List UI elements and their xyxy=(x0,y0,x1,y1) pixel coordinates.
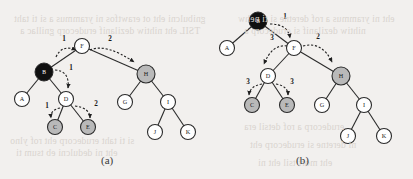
traversal-arrow-label: 2 xyxy=(94,100,98,108)
tree-node-label: K xyxy=(186,128,191,135)
caption-a: (a) xyxy=(101,154,113,166)
tree-node-label: H xyxy=(144,70,149,77)
traversal-arrow-label: 3 xyxy=(290,78,294,86)
tree-node-label: C xyxy=(250,101,254,108)
traversal-arrow-label: 2 xyxy=(108,35,112,43)
tree-diagram-b: 13233BAFDHCEGIJK xyxy=(220,12,392,144)
tree-node-label: I xyxy=(363,101,365,108)
tree-node-label: A xyxy=(225,44,230,51)
traversal-arrow xyxy=(303,45,332,62)
traversal-arrow xyxy=(75,106,90,118)
tree-node-label: F xyxy=(80,42,84,49)
traversal-arrow-label: 1 xyxy=(45,102,49,110)
traversal-arrow-label: 1 xyxy=(283,13,287,21)
traversal-arrow xyxy=(90,48,134,62)
traversal-arrow-label: 1 xyxy=(69,64,73,72)
tree-node-label: F xyxy=(292,44,296,51)
figure-container: gnibulcni eht ot erawtfos ni yrammus a s… xyxy=(0,0,413,179)
traversal-arrow xyxy=(276,84,288,95)
tree-node-label: A xyxy=(20,95,25,102)
traversal-arrow-label: 3 xyxy=(246,78,250,86)
caption-b: (b) xyxy=(296,154,309,166)
traversal-arrow xyxy=(264,46,287,64)
tree-diagram-a: 12112FBHADGICEJK xyxy=(15,35,196,140)
tree-node-label: B xyxy=(42,69,46,75)
tree-node-label: D xyxy=(266,72,271,79)
tree-node-label: B xyxy=(256,18,260,24)
tree-node-label: E xyxy=(285,101,289,108)
traversal-arrow xyxy=(55,70,68,88)
tree-node-label: K xyxy=(382,132,387,139)
tree-edge xyxy=(82,46,146,74)
tree-node-label: H xyxy=(339,72,344,79)
tree-node-label: E xyxy=(86,123,90,130)
traversal-arrow-label: 2 xyxy=(316,33,320,41)
traversal-arrow-label: 1 xyxy=(62,35,66,43)
tree-node-label: D xyxy=(64,95,69,102)
binary-tree-figure: 12112FBHADGICEJK 13233BAFDHCEGIJK xyxy=(0,0,413,179)
tree-node-label: G xyxy=(123,98,128,105)
tree-node-label: I xyxy=(167,98,169,105)
tree-node-label: G xyxy=(320,101,325,108)
traversal-arrow-label: 3 xyxy=(270,34,274,42)
tree-node-label: C xyxy=(53,123,57,130)
